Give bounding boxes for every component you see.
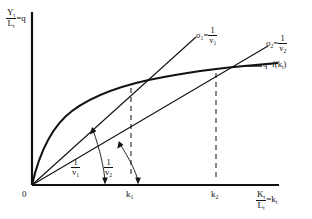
angle-label-2: 1 v2	[104, 158, 113, 178]
production-function-curve	[32, 63, 278, 185]
origin-label: 0	[22, 190, 27, 199]
angle-arc-2-arrowhead-down	[135, 178, 141, 185]
x-tick-k2: k2	[211, 190, 218, 201]
x-tick-k1: k1	[126, 190, 133, 201]
sigma1-fraction: 1 v1	[208, 26, 217, 46]
sigma2-symbol: σ2=	[266, 39, 278, 49]
y-axis-label: Yt Lt =q	[6, 8, 26, 29]
angle-label-1: 1 v1	[71, 158, 80, 178]
curve-label: q=f(kt)	[263, 60, 286, 70]
y-axis-fraction: Yt Lt	[6, 8, 16, 29]
y-axis-equals-q: =q	[16, 14, 26, 23]
figure-canvas: Yt Lt =q Kt Lt =kt 0 k1 k2 σ1= 1 v1 σ2= …	[0, 0, 312, 219]
x-axis-equals-k: =kt	[266, 195, 277, 206]
sigma1-symbol: σ1=	[196, 31, 208, 41]
angle-2-den: v2	[104, 168, 113, 178]
ray-label-sigma2: σ2= 1 v2	[266, 34, 287, 54]
angle-2-fraction: 1 v2	[104, 158, 113, 178]
ray-label-sigma1: σ1= 1 v1	[196, 26, 217, 46]
x-axis-denominator: Lt	[256, 201, 266, 211]
angle-arc-1-arrowhead-down	[102, 178, 108, 185]
diagram-svg	[0, 0, 312, 219]
angle-1-fraction: 1 v1	[71, 158, 80, 178]
sigma2-frac-den: v2	[278, 44, 287, 54]
ray-sigma1	[32, 37, 196, 185]
angle-arc-2	[120, 144, 138, 181]
sigma1-frac-den: v1	[208, 36, 217, 46]
angle-1-den: v1	[71, 168, 80, 178]
x-axis-label: Kt Lt =kt	[256, 190, 277, 211]
sigma2-fraction: 1 v2	[278, 34, 287, 54]
y-axis-denominator: Lt	[6, 19, 16, 29]
x-axis-fraction: Kt Lt	[256, 190, 266, 211]
